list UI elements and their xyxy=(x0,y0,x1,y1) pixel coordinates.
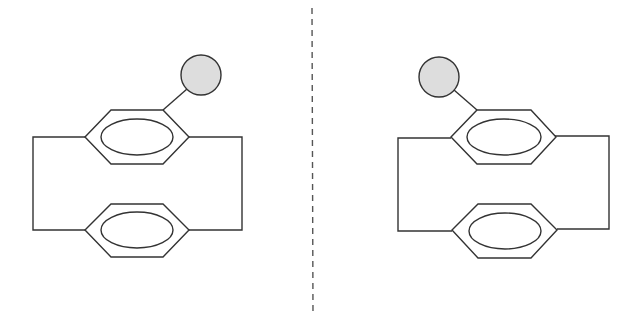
left-bridge-bond xyxy=(398,138,452,231)
substituent-group-icon xyxy=(419,57,459,97)
mirror-plane xyxy=(312,8,313,316)
right-bridge-bond xyxy=(555,136,609,229)
right-bridge-bond xyxy=(189,137,242,230)
substituent-bond xyxy=(163,89,187,110)
right-enantiomer xyxy=(398,57,609,258)
substituent-group-icon xyxy=(181,55,221,95)
enantiomer-diagram xyxy=(0,0,639,325)
left-bridge-bond xyxy=(33,137,85,230)
substituent-bond xyxy=(454,90,477,110)
left-enantiomer xyxy=(33,55,242,257)
